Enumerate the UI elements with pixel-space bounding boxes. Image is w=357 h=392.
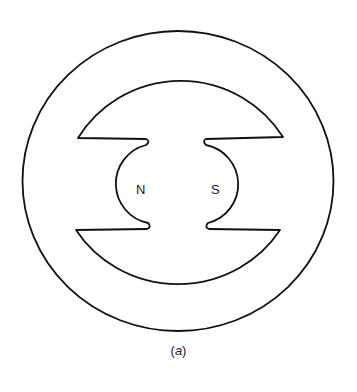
- pole-pieces-outline: [76, 81, 283, 284]
- outer-yoke-circle: [23, 31, 334, 331]
- south-pole-label: S: [211, 183, 220, 196]
- figure-caption: (a): [0, 343, 357, 358]
- magnet-cross-section: [0, 0, 357, 392]
- caption-close-paren: ): [182, 343, 186, 358]
- magnet-diagram: N S (a): [0, 0, 357, 392]
- north-pole-label: N: [136, 183, 145, 196]
